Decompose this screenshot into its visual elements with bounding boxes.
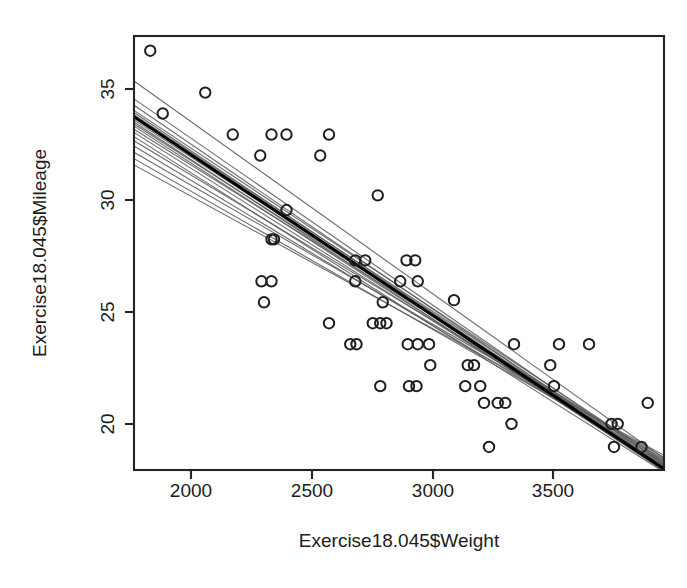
scatter-plot-figure: 2000250030003500 20253035 Exercise18.045… xyxy=(0,0,687,588)
y-axis-title: Exercise18.045$Mileage xyxy=(29,149,50,357)
x-tick-label: 3500 xyxy=(532,480,574,501)
y-tick-label: 20 xyxy=(97,413,118,434)
y-tick-label: 35 xyxy=(97,78,118,99)
x-axis-title: Exercise18.045$Weight xyxy=(299,530,500,551)
x-tick-label: 2500 xyxy=(291,480,333,501)
plot-canvas: 2000250030003500 20253035 Exercise18.045… xyxy=(0,0,687,588)
y-tick-label: 30 xyxy=(97,189,118,210)
x-tick-label: 3000 xyxy=(412,480,454,501)
x-tick-label: 2000 xyxy=(170,480,212,501)
y-tick-label: 25 xyxy=(97,301,118,322)
